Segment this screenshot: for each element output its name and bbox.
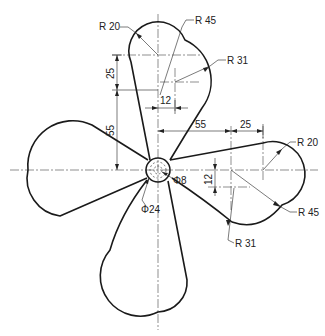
top-r31-label: R 31 xyxy=(227,55,249,66)
right-offset-25-label: 25 xyxy=(240,119,252,130)
top-hub-55-label: 55 xyxy=(105,124,116,136)
blade-right xyxy=(170,142,305,225)
propeller-drawing: 25 55 12 R 20 R 45 R 31 55 25 12 R xyxy=(0,0,325,336)
right-r20-label: R 20 xyxy=(297,137,319,148)
right-r31-label: R 31 xyxy=(235,238,257,249)
right-r45-label: R 45 xyxy=(298,207,320,218)
hub-dimensions: Φ8 Φ24 xyxy=(141,172,187,215)
top-offset-12-label: 12 xyxy=(160,95,172,106)
blade-top xyxy=(129,22,211,160)
right-hub-55-label: 55 xyxy=(195,119,207,130)
hub-phi24-label: Φ24 xyxy=(141,204,161,215)
top-r20-label: R 20 xyxy=(99,21,121,32)
hub-phi8-label: Φ8 xyxy=(173,175,187,186)
blade-left xyxy=(27,121,148,216)
top-blade-dimensions: 25 55 12 R 20 R 45 R 31 xyxy=(99,15,249,170)
right-offset-12-label: 12 xyxy=(203,173,214,185)
top-offset-25-label: 25 xyxy=(105,67,116,79)
top-r45-label: R 45 xyxy=(195,15,217,26)
blade-bottom xyxy=(100,180,187,316)
